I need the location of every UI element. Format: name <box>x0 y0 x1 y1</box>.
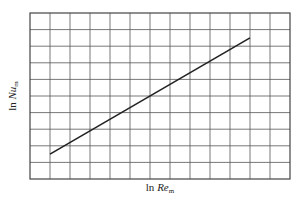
grid-lines <box>30 13 290 179</box>
y-axis-label: ln Num <box>6 81 20 111</box>
chart: ln Rem ln Num <box>0 0 300 200</box>
x-axis-label: ln Rem <box>146 181 175 195</box>
